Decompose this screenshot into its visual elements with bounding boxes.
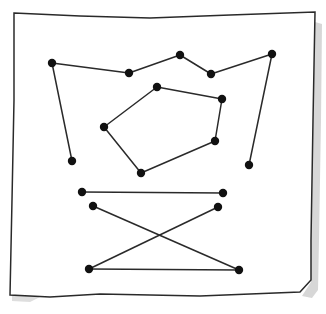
dot-marker (153, 83, 161, 91)
dot-marker (68, 157, 76, 165)
hourglass-path (82, 192, 223, 193)
dot-marker (214, 203, 222, 211)
dot-marker (207, 70, 215, 78)
dot-marker (89, 202, 97, 210)
dot-marker (137, 169, 145, 177)
dot-marker (219, 189, 227, 197)
dot-marker (218, 95, 226, 103)
hourglass-bottom (89, 269, 239, 270)
dot-marker (235, 266, 243, 274)
dot-marker (268, 50, 276, 58)
dot-marker (85, 265, 93, 273)
dot-marker (125, 69, 133, 77)
dot-marker (100, 123, 108, 131)
sketch-figure (0, 0, 326, 314)
dot-marker (48, 59, 56, 67)
sketch-canvas (0, 0, 326, 314)
dot-marker (211, 137, 219, 145)
dot-marker (245, 161, 253, 169)
dot-marker (176, 51, 184, 59)
dot-marker (78, 188, 86, 196)
